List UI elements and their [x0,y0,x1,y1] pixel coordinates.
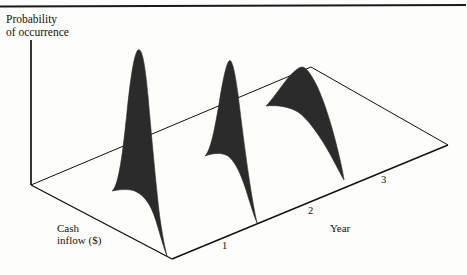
base-edge-front-right [172,145,448,259]
z-axis-label: Year [330,222,350,234]
distribution-curve-year-2 [205,61,257,223]
top-rule [0,5,466,7]
z-tick-label-1: 1 [222,240,227,251]
figure-container: graph Probability of occurrence Cash inf… [0,0,467,275]
distribution-curve-year-3 [266,67,344,180]
z-tick-label-3: 3 [381,174,386,185]
y-axis-label: Probability of occurrence [6,13,69,39]
x-axis-label: Cash inflow ($) [57,222,101,247]
base-edge-back-left [31,67,311,185]
distribution-curve-year-1 [112,50,167,256]
z-tick-label-2: 2 [308,205,313,216]
